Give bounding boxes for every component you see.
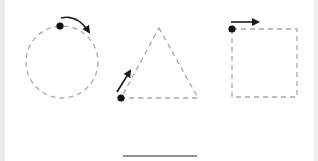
- shape-tracing-diagram: [0, 0, 318, 161]
- dashed-circle-outline: [26, 26, 98, 98]
- square-shape-group: [228, 22, 297, 97]
- start-point-dot: [228, 25, 235, 32]
- up-arrow-icon: [117, 71, 130, 92]
- dashed-triangle-outline: [121, 28, 198, 98]
- start-point-dot: [117, 94, 124, 101]
- triangle-shape-group: [117, 28, 198, 102]
- clockwise-arrow-icon: [61, 17, 89, 32]
- dashed-square-outline: [232, 29, 297, 97]
- start-point-dot: [56, 22, 63, 29]
- circle-shape-group: [26, 17, 98, 98]
